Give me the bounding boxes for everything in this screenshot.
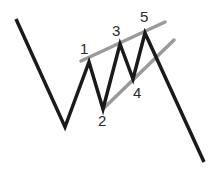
price-path: [16, 19, 204, 162]
wave-label-1: 1: [80, 40, 88, 57]
wave-diagram: 1 2 3 4 5: [0, 0, 218, 169]
wave-label-3: 3: [112, 22, 120, 39]
wave-label-4: 4: [133, 84, 141, 101]
wave-label-5: 5: [140, 8, 148, 25]
wave-label-2: 2: [98, 112, 106, 129]
